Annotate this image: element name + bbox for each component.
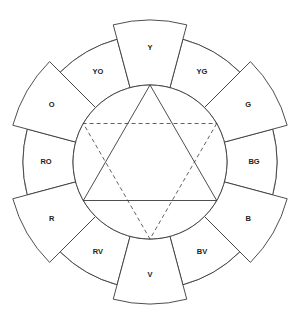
segment-label-o: O [49, 100, 55, 109]
segment-label-r: R [49, 214, 55, 223]
segment-label-bg: BG [248, 157, 259, 166]
segment-label-y: Y [147, 43, 152, 52]
segment-label-v: V [147, 270, 152, 279]
segment-label-rv: RV [93, 247, 103, 256]
segment-label-bv: BV [197, 247, 207, 256]
inner-circle [73, 85, 227, 239]
segment-label-b: B [246, 214, 252, 223]
color-wheel-diagram: YYGGBGBBVVRVRROOYO [0, 0, 298, 316]
segment-label-g: G [245, 100, 251, 109]
segment-label-yo: YO [93, 67, 104, 76]
segment-label-yg: YG [197, 67, 208, 76]
segment-label-ro: RO [40, 157, 51, 166]
